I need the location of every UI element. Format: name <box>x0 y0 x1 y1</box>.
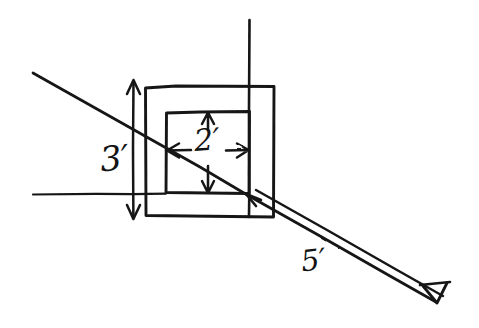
label-three-feet: 3′ <box>98 137 131 180</box>
two-foot-arrow-right <box>226 144 249 158</box>
label-two-feet: 2′ <box>193 121 221 158</box>
hand-drawn-sketch <box>0 0 479 328</box>
diagram-canvas: 3′ 2′ 5′ <box>0 0 479 328</box>
diagonal-ray-shaft-b <box>256 190 443 296</box>
label-five-feet: 5′ <box>299 242 328 279</box>
three-foot-dimension-line <box>133 82 134 218</box>
diagonal-ray-shaft-a <box>249 196 436 302</box>
